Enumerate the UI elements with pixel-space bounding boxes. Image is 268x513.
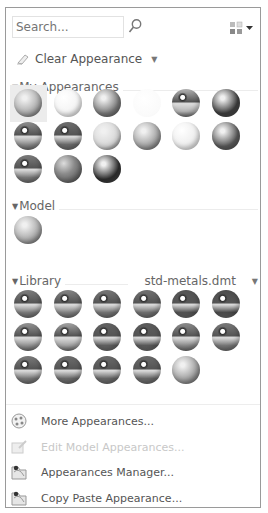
appearance-sphere-icon [212, 122, 240, 150]
appearance-sphere-icon [172, 356, 200, 384]
appearance-swatch[interactable] [93, 356, 121, 384]
appearance-sphere-icon [54, 122, 82, 150]
clear-appearance-label: Clear Appearance [35, 52, 142, 66]
appearance-sphere-icon [93, 356, 121, 384]
menu-item-label: More Appearances... [41, 415, 154, 428]
appearance-sphere-icon [172, 323, 200, 351]
copy-paste-appearance-icon [10, 489, 28, 507]
appearance-swatch[interactable] [54, 122, 82, 150]
appearances-manager-item[interactable]: Appearances Manager... [8, 461, 256, 483]
clear-appearance-button[interactable]: Clear Appearance ▼ [16, 52, 157, 66]
section-label: Model [19, 199, 55, 213]
more-appearances-item[interactable]: More Appearances... [8, 410, 256, 432]
appearance-sphere-icon [133, 122, 161, 150]
model-grid [14, 216, 240, 244]
appearance-swatch[interactable] [54, 155, 82, 183]
appearance-swatch[interactable] [54, 89, 82, 117]
chevron-down-icon[interactable]: ▼ [151, 55, 157, 64]
appearance-swatch[interactable] [14, 216, 42, 244]
chevron-down-icon[interactable]: ▼ [252, 277, 258, 286]
thumbnail-view-icon [229, 21, 255, 35]
appearance-swatch[interactable] [172, 356, 200, 384]
appearance-sphere-icon [172, 290, 200, 318]
appearance-sphere-icon [172, 122, 200, 150]
appearance-swatch[interactable] [212, 122, 240, 150]
appearance-swatch[interactable] [212, 290, 240, 318]
appearance-swatch[interactable] [14, 122, 42, 150]
appearance-sphere-icon [172, 89, 200, 117]
model-header[interactable]: ▼ Model [12, 199, 258, 213]
appearance-sphere-icon [54, 155, 82, 183]
appearance-swatch[interactable] [14, 290, 42, 318]
chevron-down-icon [246, 26, 253, 30]
appearance-swatch[interactable] [54, 323, 82, 351]
appearance-sphere-icon [212, 89, 240, 117]
appearance-swatch[interactable] [14, 155, 42, 183]
appearance-swatch[interactable] [172, 122, 200, 150]
edit-model-appearances-item[interactable]: Edit Model Appearances... [8, 436, 256, 458]
library-file-select[interactable]: std-metals.dmt [144, 274, 235, 288]
appearance-sphere-icon [14, 122, 42, 150]
appearance-swatch[interactable] [172, 290, 200, 318]
collapse-triangle-icon[interactable]: ▼ [12, 277, 18, 286]
appearance-sphere-icon [14, 356, 42, 384]
my-appearances-grid [14, 89, 240, 183]
divider [59, 209, 258, 210]
appearance-swatch[interactable] [133, 356, 161, 384]
appearance-sphere-icon [212, 290, 240, 318]
appearance-sphere-icon [14, 216, 42, 244]
appearance-sphere-icon [54, 323, 82, 351]
appearance-sphere-icon [93, 89, 121, 117]
section-label: Library [19, 274, 61, 288]
appearance-swatch[interactable] [14, 356, 42, 384]
appearance-swatch[interactable] [93, 122, 121, 150]
appearance-sphere-icon [133, 290, 161, 318]
appearances-manager-icon [10, 463, 28, 481]
appearance-sphere-icon [54, 290, 82, 318]
appearance-swatch[interactable] [172, 323, 200, 351]
divider [65, 284, 128, 285]
appearance-swatch[interactable] [212, 89, 240, 117]
library-header[interactable]: ▼ Library std-metals.dmt ▼ [12, 274, 258, 288]
appearance-swatch[interactable] [93, 323, 121, 351]
appearance-sphere-icon [14, 323, 42, 351]
appearance-swatch[interactable] [133, 89, 161, 117]
appearance-swatch[interactable] [14, 89, 42, 117]
menu-item-label: Edit Model Appearances... [41, 441, 185, 454]
appearance-sphere-icon [93, 155, 121, 183]
appearance-sphere-icon [14, 290, 42, 318]
eraser-icon [16, 53, 30, 65]
appearance-sphere-icon [212, 323, 240, 351]
appearance-sphere-icon [54, 89, 82, 117]
appearance-swatch[interactable] [54, 356, 82, 384]
appearance-sphere-icon [54, 356, 82, 384]
appearance-swatch[interactable] [133, 122, 161, 150]
view-mode-button[interactable] [229, 20, 255, 34]
appearance-swatch[interactable] [172, 89, 200, 117]
edit-model-appearances-icon [10, 438, 28, 456]
appearance-sphere-icon [93, 122, 121, 150]
appearance-sphere-icon [14, 155, 42, 183]
appearance-swatch[interactable] [93, 290, 121, 318]
appearance-swatch[interactable] [212, 323, 240, 351]
appearance-swatch[interactable] [133, 290, 161, 318]
appearance-swatch[interactable] [54, 290, 82, 318]
appearance-sphere-icon [133, 356, 161, 384]
menu-item-label: Copy Paste Appearance... [41, 492, 182, 505]
more-appearances-icon [10, 412, 28, 430]
appearance-swatch[interactable] [14, 323, 42, 351]
copy-paste-appearance-item[interactable]: Copy Paste Appearance... [8, 487, 256, 509]
appearance-sphere-icon [133, 323, 161, 351]
divider [6, 404, 260, 405]
menu-item-label: Appearances Manager... [41, 466, 174, 479]
appearance-sphere-icon [93, 323, 121, 351]
search-icon[interactable] [128, 18, 142, 34]
appearance-sphere-icon [14, 89, 42, 117]
appearance-swatch[interactable] [93, 155, 121, 183]
appearance-swatch[interactable] [133, 323, 161, 351]
appearance-swatch[interactable] [93, 89, 121, 117]
collapse-triangle-icon[interactable]: ▼ [12, 202, 18, 211]
search-input[interactable] [12, 16, 124, 38]
library-grid [14, 290, 240, 384]
appearance-sphere-icon [93, 290, 121, 318]
